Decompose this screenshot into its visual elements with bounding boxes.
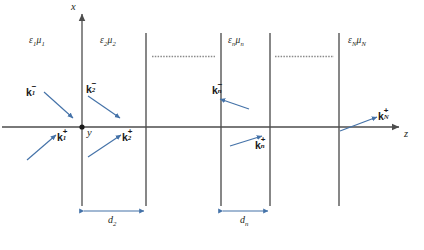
axis-label-x: x [71, 2, 76, 13]
wavevector-label-kn-minus: k−n [212, 84, 223, 96]
wavevector-label-k2-minus: k−2 [86, 83, 97, 95]
interface-lines [146, 33, 339, 206]
k1-plus-sub: 1 [63, 135, 67, 142]
k1-minus-arrow [44, 92, 73, 118]
kn-minus-arrow [220, 99, 249, 109]
k1-plus-arrow [27, 135, 56, 160]
axis-label-z: z [404, 129, 408, 140]
k2-plus-sub: 2 [128, 135, 132, 142]
origin-dot [79, 124, 84, 129]
multilayer-media-diagram: x z y ε1μ1 ε2μ2 εnμn εNμN k−1 k+1 k−2 k+… [0, 0, 424, 250]
dn-sub: n [245, 220, 248, 227]
medium-label-n: εnμn [228, 36, 244, 47]
medium-label-2: ε2μ2 [100, 36, 116, 47]
medium-n-mu-sub: n [240, 40, 244, 47]
wavevector-label-k1-plus: k+1 [57, 131, 68, 143]
d2-sub: 2 [113, 220, 116, 227]
wavevector-label-kn-plus: k+n [255, 139, 266, 151]
wavevector-label-k1-minus: k−1 [26, 86, 37, 98]
k2-minus-arrow [88, 96, 120, 118]
kn-plus-sub: n [261, 143, 265, 150]
kN-plus-arrow [340, 117, 377, 131]
dimension-label-d2: d2 [108, 215, 116, 228]
medium-1-mu-sub: 1 [41, 40, 45, 47]
k2-plus-arrow [88, 135, 121, 157]
kN-plus-sub: N [384, 114, 389, 121]
medium-label-1: ε1μ1 [29, 36, 45, 47]
medium-N-mu-sub: N [362, 40, 367, 47]
wavevector-arrows [27, 92, 377, 160]
k1-minus-sub: 1 [32, 90, 36, 97]
medium-2-mu-sub: 2 [112, 40, 116, 47]
dimension-label-dn: dn [240, 215, 248, 228]
axis-label-y: y [87, 128, 92, 139]
wavevector-label-kN-plus: k+N [378, 110, 389, 122]
wavevector-label-k2-plus: k+2 [122, 131, 133, 143]
kn-minus-sub: n [218, 88, 222, 95]
k2-minus-sub: 2 [92, 87, 96, 94]
medium-label-N: εNμN [348, 36, 366, 47]
